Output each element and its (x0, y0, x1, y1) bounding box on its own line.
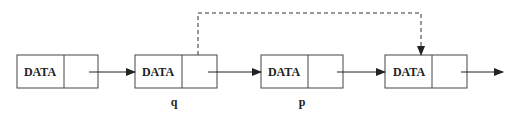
linked-list-diagram: DATA DATA q DATA p DATA (0, 0, 515, 117)
list-node-2: DATA q (135, 55, 217, 109)
pointer-label-q: q (171, 95, 178, 109)
node-data-label: DATA (268, 65, 301, 79)
pointer-label-p: p (299, 95, 306, 109)
node-data-label: DATA (393, 65, 426, 79)
list-node-1: DATA (17, 55, 98, 88)
node-data-label: DATA (142, 65, 175, 79)
list-node-3: DATA p (261, 55, 343, 109)
node-data-label: DATA (24, 65, 57, 79)
dashed-bypass-arrow (198, 13, 421, 55)
list-node-4: DATA (385, 55, 467, 88)
